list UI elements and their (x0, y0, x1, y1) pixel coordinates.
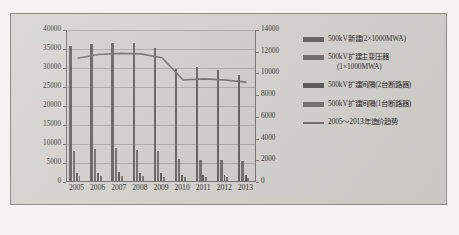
plot-area (66, 30, 256, 182)
y-tick-label-right: 0 (261, 178, 265, 185)
y-tick-label-left: 10000 (13, 140, 61, 147)
y-tick-label-right: 4000 (261, 135, 275, 142)
y-tick-left (63, 182, 66, 183)
legend-label: 500kV扩建主变压器(1×1000MWA) (328, 52, 389, 71)
y-tick-label-left: 40000 (13, 26, 61, 33)
legend-color-swatch (303, 37, 324, 42)
trend-line-series (67, 30, 257, 182)
y-tick-label-left: 30000 (13, 64, 61, 71)
legend-color-swatch (303, 55, 324, 60)
legend-color-swatch (303, 83, 324, 88)
legend-label: 2005～2013年造价趋势 (328, 117, 398, 126)
chart-figure: 0500010000150002000025000300003500040000… (0, 0, 459, 235)
legend-item[interactable]: 500kV扩建间隔(2台断路器) (303, 80, 448, 89)
y-tick-label-left: 15000 (13, 121, 61, 128)
legend-label-line2: (1×1000MWA) (328, 62, 389, 71)
plot-area-wrapper: 0500010000150002000025000300003500040000… (11, 14, 301, 206)
legend-color-swatch (303, 102, 324, 107)
chart-legend: 500kV新建(2×1000MWA)500kV扩建主变压器(1×1000MWA)… (303, 34, 448, 136)
y-tick-label-left: 5000 (13, 159, 61, 166)
y-tick-label-right: 10000 (261, 69, 279, 76)
legend-item[interactable]: 500kV扩建间隔(1台断路器) (303, 99, 448, 108)
legend-label: 500kV扩建间隔(1台断路器) (328, 99, 411, 108)
figure-frame: 0500010000150002000025000300003500040000… (10, 13, 447, 205)
y-tick-label-right: 14000 (261, 26, 279, 33)
y-tick-label-right: 6000 (261, 113, 275, 120)
legend-label: 500kV扩建间隔(2台断路器) (328, 80, 411, 89)
legend-line-swatch (303, 122, 324, 124)
x-axis-labels: 200520062007200820092010201120122013 (66, 184, 256, 198)
y-tick-label-left: 35000 (13, 45, 61, 52)
legend-item[interactable]: 500kV扩建主变压器(1×1000MWA) (303, 52, 448, 71)
legend-label: 500kV新建(2×1000MWA) (328, 34, 406, 43)
y-tick-label-right: 8000 (261, 91, 275, 98)
y-tick-label-right: 2000 (261, 156, 275, 163)
x-tick-label: 2013 (233, 184, 258, 192)
legend-item[interactable]: 500kV新建(2×1000MWA) (303, 34, 448, 43)
y-tick-label-left: 20000 (13, 102, 61, 109)
y-tick-label-right: 12000 (261, 48, 279, 55)
y-tick-label-left: 25000 (13, 83, 61, 90)
y-tick-right (256, 182, 259, 183)
trend-line-path (78, 53, 247, 82)
y-tick-label-left: 0 (13, 178, 61, 185)
legend-item[interactable]: 2005～2013年造价趋势 (303, 117, 448, 126)
